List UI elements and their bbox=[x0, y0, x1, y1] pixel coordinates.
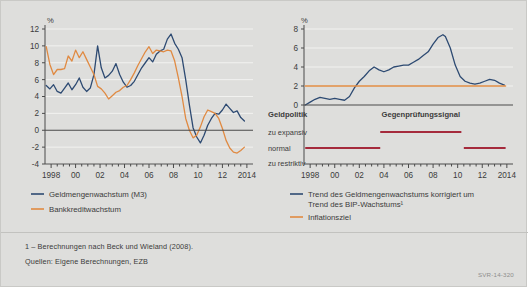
x-tick-label: 08 bbox=[429, 171, 439, 180]
x-tick-label: 1998 bbox=[301, 171, 320, 180]
right-y-axis-unit-label: % bbox=[301, 16, 308, 25]
y-tick-label: 4 bbox=[293, 63, 298, 72]
left-legend: Geldmengenwachstum (M3)Bankkreditwachstu… bbox=[31, 190, 147, 214]
right-x-tick-labels: 1998000204060810122014 bbox=[301, 171, 516, 180]
y-tick-label: 6 bbox=[34, 76, 39, 85]
y-tick-label: 12 bbox=[30, 25, 40, 34]
x-tick-label: 10 bbox=[193, 171, 203, 180]
x-tick-label: 08 bbox=[169, 171, 179, 180]
gegenpruefungssignal-label: Gegenprüfungssignal bbox=[382, 110, 460, 119]
right-data-lines bbox=[305, 35, 505, 105]
right-legend: Trend des Geldmengenwachstums korrigiert… bbox=[290, 190, 474, 222]
right-chart-svg: 02468 1998000204060810122014 % Geldpolit… bbox=[265, 1, 528, 231]
left-y-tick-labels: -4-2024681012 bbox=[30, 25, 40, 169]
signal-category-label: normal bbox=[268, 144, 291, 153]
x-tick-label: 12 bbox=[218, 171, 228, 180]
signal-category-label: zu expansiv bbox=[268, 128, 307, 137]
x-tick-label: 00 bbox=[71, 171, 81, 180]
y-tick-label: 4 bbox=[34, 92, 39, 101]
x-tick-label: 2014 bbox=[238, 171, 257, 180]
x-tick-label: 04 bbox=[120, 171, 130, 180]
y-tick-label: -4 bbox=[32, 160, 40, 169]
data-line bbox=[305, 35, 504, 105]
x-tick-label: 02 bbox=[355, 171, 365, 180]
right-gridlines bbox=[304, 29, 513, 86]
x-tick-label: 00 bbox=[330, 171, 340, 180]
y-tick-label: 10 bbox=[30, 42, 40, 51]
legend-label: Bankkreditwachstum bbox=[49, 205, 121, 214]
left-data-lines bbox=[46, 34, 244, 153]
x-tick-label: 04 bbox=[379, 171, 389, 180]
x-tick-label: 06 bbox=[144, 171, 154, 180]
legend-label: Trend des BIP-Wachstums¹ bbox=[308, 200, 404, 209]
y-tick-label: 6 bbox=[293, 44, 298, 53]
x-tick-label: 2014 bbox=[498, 171, 517, 180]
right-axes bbox=[301, 25, 513, 168]
footer-divider bbox=[1, 232, 528, 233]
x-tick-label: 12 bbox=[478, 171, 488, 180]
x-tick-label: 02 bbox=[96, 171, 106, 180]
x-tick-label: 1998 bbox=[42, 171, 61, 180]
right-chart-panel: 02468 1998000204060810122014 % Geldpolit… bbox=[265, 1, 528, 287]
x-tick-label: 06 bbox=[404, 171, 414, 180]
legend-label: Trend des Geldmengenwachstums korrigiert… bbox=[308, 190, 474, 199]
footnote-1: 1 – Berechnungen nach Beck und Wieland (… bbox=[25, 242, 193, 251]
footnote-sources: Quellen: Eigene Berechnungen, EZB bbox=[25, 257, 148, 266]
signal-category-label: zu restriktiv bbox=[268, 159, 306, 168]
left-y-axis-unit-label: % bbox=[47, 16, 54, 25]
left-chart-svg: -4-2024681012 1998000204060810122014 % G… bbox=[1, 1, 269, 231]
right-y-tick-labels: 02468 bbox=[293, 25, 298, 110]
y-tick-label: 2 bbox=[293, 82, 298, 91]
y-tick-label: 8 bbox=[34, 59, 39, 68]
legend-label: Inflationsziel bbox=[308, 213, 351, 222]
signal-panel-title: Geldpolitik bbox=[268, 110, 308, 119]
left-x-tick-labels: 1998000204060810122014 bbox=[42, 171, 256, 180]
x-tick-label: 10 bbox=[453, 171, 463, 180]
y-tick-label: 0 bbox=[34, 126, 39, 135]
legend-label: Geldmengenwachstum (M3) bbox=[49, 190, 147, 199]
figure-code: SVR-14-320 bbox=[478, 271, 514, 278]
y-tick-label: 8 bbox=[293, 25, 298, 34]
y-tick-label: 0 bbox=[293, 101, 298, 110]
left-gridlines bbox=[45, 29, 253, 164]
y-tick-label: 2 bbox=[34, 109, 39, 118]
y-tick-label: -2 bbox=[32, 143, 40, 152]
